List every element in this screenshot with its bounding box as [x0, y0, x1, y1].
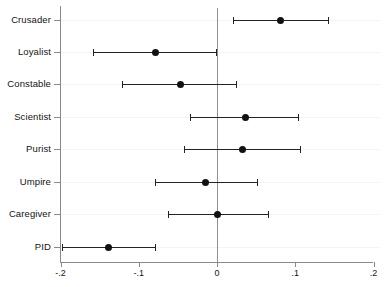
ci-cap-low-umpire [155, 179, 156, 186]
x-axis-tick [295, 262, 296, 267]
ci-cap-low-constable [122, 81, 123, 88]
ci-cap-high-scientist [298, 114, 299, 121]
x-axis-tick [139, 262, 140, 267]
y-axis-tick [54, 182, 60, 183]
ci-cap-high-pid [155, 244, 156, 251]
y-axis-tick-label-pid: PID [35, 242, 51, 252]
gridline [60, 20, 380, 21]
y-axis-tick [54, 20, 60, 21]
point-estimate-purist [239, 146, 246, 153]
point-estimate-constable [177, 81, 184, 88]
x-axis-tick-label: -.1 [133, 269, 144, 278]
y-axis-line [60, 6, 61, 263]
x-axis-tick-label: .1 [291, 269, 299, 278]
point-estimate-umpire [202, 179, 209, 186]
ci-cap-high-umpire [257, 179, 258, 186]
y-axis-tick-label-scientist: Scientist [14, 112, 51, 122]
x-axis-tick [217, 262, 218, 267]
ci-cap-low-pid [62, 244, 63, 251]
plot-area: CrusaderLoyalistConstableScientistPurist… [0, 0, 388, 287]
ci-cap-low-caregiver [168, 211, 169, 218]
zero-reference-line [217, 8, 218, 262]
y-axis-tick [54, 149, 60, 150]
point-estimate-caregiver [214, 211, 221, 218]
point-estimate-scientist [242, 114, 249, 121]
y-axis-tick [54, 84, 60, 85]
x-axis-tick [61, 262, 62, 267]
y-axis-tick [54, 247, 60, 248]
x-axis-tick [374, 262, 375, 267]
y-axis-tick [54, 117, 60, 118]
point-estimate-pid [105, 244, 112, 251]
y-axis-tick-label-constable: Constable [7, 79, 51, 89]
ci-cap-low-crusader [233, 17, 234, 24]
x-axis-tick-label: -.2 [55, 269, 66, 278]
point-estimate-crusader [277, 17, 284, 24]
y-axis-tick-label-loyalist: Loyalist [18, 47, 51, 57]
coefficient-plot: CrusaderLoyalistConstableScientistPurist… [0, 0, 388, 287]
y-axis-tick-label-crusader: Crusader [11, 15, 51, 25]
y-axis-tick-label-caregiver: Caregiver [9, 209, 51, 219]
ci-cap-high-caregiver [268, 211, 269, 218]
point-estimate-loyalist [152, 49, 159, 56]
ci-cap-low-loyalist [93, 49, 94, 56]
y-axis-tick [54, 52, 60, 53]
ci-cap-low-scientist [190, 114, 191, 121]
x-axis-tick-label: .2 [370, 269, 378, 278]
ci-cap-high-crusader [328, 17, 329, 24]
ci-cap-high-constable [236, 81, 237, 88]
ci-cap-low-purist [184, 146, 185, 153]
ci-cap-high-loyalist [216, 49, 217, 56]
y-axis-tick [54, 214, 60, 215]
y-axis-tick-label-purist: Purist [26, 144, 51, 154]
y-axis-tick-label-umpire: Umpire [20, 177, 51, 187]
x-axis-tick-label: 0 [214, 269, 219, 278]
ci-cap-high-purist [300, 146, 301, 153]
